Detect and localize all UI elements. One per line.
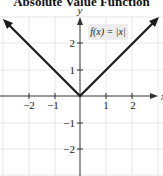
x-tick-label: 1 [103, 99, 109, 111]
x-tick-label: 2 [130, 99, 136, 111]
y-tick-label: 1 [70, 64, 76, 76]
x-tick-label: −2 [23, 99, 35, 111]
y-tick-label: 2 [70, 37, 76, 49]
chart-plot: −2 −1 1 2 2 1 −1 −2 y x [0, 0, 163, 176]
function-label: f(x) = |x| [88, 24, 128, 40]
x-axis-label: x [160, 90, 163, 102]
y-axis-label: y [77, 4, 83, 16]
y-tick-label: −1 [63, 117, 75, 129]
x-tick-label: −1 [47, 99, 59, 111]
abs-value-line [9, 23, 153, 96]
y-axis-arrow-icon [77, 17, 83, 25]
y-tick-label: −2 [63, 143, 75, 155]
x-axis-arrow-icon [150, 93, 158, 99]
